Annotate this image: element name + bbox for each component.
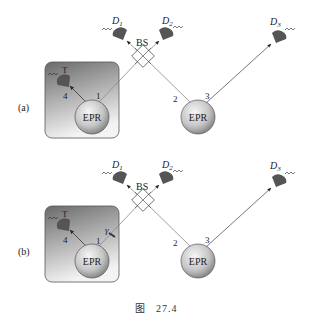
d1-label: D1: [111, 15, 123, 28]
beam-splitter: [132, 189, 155, 212]
beam-3: [206, 44, 271, 103]
detector-d1-icon: [102, 27, 127, 40]
caption-number: 27.4: [156, 303, 178, 314]
gate-label: γ: [105, 225, 109, 235]
beam-label-4: 4: [63, 235, 68, 245]
beam-label-3: 3: [205, 91, 210, 101]
panel-b: BS EPR EPR D1 D2 D3 T γ 1 4 2 3 (b): [18, 159, 295, 282]
epr-local-label: EPR: [83, 256, 102, 267]
detector-d1-icon: [102, 171, 127, 184]
bs-label: BS: [136, 37, 148, 48]
epr-local-label: EPR: [83, 112, 102, 123]
beam-label-3: 3: [205, 235, 210, 245]
t-label: T: [62, 65, 68, 75]
panel-a: BS EPR EPR D1 D2 D3 T 1 4 2 3: [18, 15, 295, 138]
d1-label: D1: [111, 159, 123, 172]
detector-d2-icon: [159, 170, 183, 184]
d3-label: D3: [269, 160, 281, 173]
detector-d3-icon: [272, 28, 295, 43]
beam-label-1: 1: [96, 91, 101, 101]
epr-remote-label: EPR: [189, 256, 208, 267]
d3-label: D3: [269, 16, 281, 29]
detector-d3-icon: [272, 172, 295, 187]
beam-label-1: 1: [96, 236, 101, 246]
epr-remote-label: EPR: [189, 112, 208, 123]
beam-label-2: 2: [173, 94, 178, 104]
d2-label: D2: [161, 159, 173, 172]
beam-label-4: 4: [63, 91, 68, 101]
beam-splitter: [132, 45, 155, 68]
beam-label-2: 2: [173, 238, 178, 248]
panel-label-b: (b): [18, 246, 30, 258]
bs-label: BS: [136, 181, 148, 192]
t-label: T: [62, 209, 68, 219]
caption-prefix: 图: [135, 303, 146, 314]
diagram-canvas: BS EPR EPR D1 D2 D3 T 1 4 2 3: [0, 0, 312, 325]
figure-caption: 图 27.4: [0, 300, 312, 315]
detector-d2-icon: [159, 26, 183, 40]
beam-3: [206, 188, 271, 247]
d2-label: D2: [161, 15, 173, 28]
panel-label-a: (a): [18, 102, 29, 114]
